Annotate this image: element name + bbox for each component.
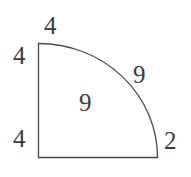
quarter-circle-shape: [0, 0, 191, 177]
label-left-side-upper: 4: [13, 43, 26, 68]
label-corner-right: 2: [164, 128, 177, 153]
label-arc: 9: [133, 62, 146, 87]
quarter-circle-figure: 4 4 4 9 9 2: [0, 0, 191, 177]
label-top-side: 4: [44, 13, 57, 38]
label-interior-area: 9: [79, 90, 92, 115]
label-left-side-lower: 4: [13, 126, 26, 151]
